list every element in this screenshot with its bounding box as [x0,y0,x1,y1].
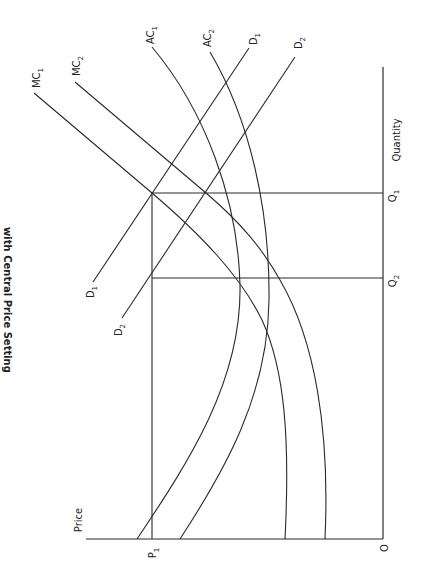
svg-text:Q2: Q2 [387,275,401,287]
d2-top-label: D2 [293,37,307,49]
d1-top-label: D1 [248,33,262,45]
marginal-cost-curve-mc1 [34,93,287,539]
average-cost-curve-ac2 [180,52,269,539]
svg-text:AC2: AC2 [202,29,216,47]
mc2-label: MC2 [71,56,85,76]
q2-label: Q2 [387,275,401,287]
q1-label: Q1 [387,190,401,202]
marginal-cost-curve-mc2 [75,82,326,539]
svg-text:AC1: AC1 [145,26,159,44]
svg-text:D1: D1 [85,286,99,298]
svg-text:P1: P1 [147,548,161,559]
svg-text:MC1: MC1 [31,68,45,88]
price-axis-label: Price [73,508,84,532]
ac1-label: AC1 [145,26,159,44]
svg-text:D2: D2 [293,37,307,49]
ac2-label: AC2 [202,29,216,47]
p1-label: P1 [147,548,161,559]
svg-text:D1: D1 [248,33,262,45]
svg-text:D2: D2 [113,324,127,336]
svg-text:MC2: MC2 [71,56,85,76]
d2-bottom-label: D2 [113,324,127,336]
diagram-canvas: with Central Price Setting Quantity Pric… [0,0,427,575]
origin-label: O [379,544,390,552]
quantity-axis-label: Quantity [391,118,402,161]
demand-curve-d1 [93,48,249,282]
mc1-label: MC1 [31,68,45,88]
svg-text:Q1: Q1 [387,190,401,202]
d1-bottom-label: D1 [85,286,99,298]
diagram-title: with Central Price Setting [2,227,13,373]
